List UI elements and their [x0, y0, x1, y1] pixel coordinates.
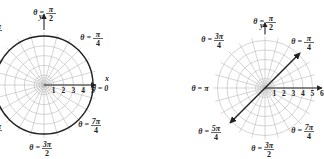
- angle-label: θ =π4: [291, 34, 314, 52]
- grid-spoke: [30, 85, 44, 136]
- angle-label: θ =5π4: [198, 124, 221, 142]
- angle-label: θ =7π4: [291, 123, 314, 141]
- svg-text:θ = 0: θ = 0: [92, 84, 109, 93]
- radius-tick-label: 4: [301, 89, 305, 98]
- polar-graphs: y12345xθ =π2θ =π4θ =3π4θ = 0θ =7π4θ =5π4…: [0, 0, 324, 159]
- svg-text:2: 2: [267, 150, 271, 159]
- radius-tick-label: 6: [320, 89, 324, 98]
- svg-text:θ =: θ =: [291, 37, 302, 46]
- angle-label: θ = π: [191, 84, 209, 93]
- radius-tick-label: 1: [273, 89, 277, 98]
- grid-spoke: [30, 34, 44, 85]
- svg-text:θ =: θ =: [198, 127, 209, 136]
- svg-text:θ =: θ =: [33, 8, 44, 17]
- svg-text:4: 4: [307, 43, 311, 52]
- svg-text:4: 4: [94, 126, 98, 135]
- svg-text:θ =: θ =: [78, 120, 89, 129]
- svg-text:2: 2: [49, 14, 53, 23]
- svg-text:5π: 5π: [212, 124, 221, 133]
- radius-tick-label: 2: [62, 86, 66, 95]
- right-polar-graph-line-theta-pi-4: y123456θ =π2θ =3π4θ =π4θ = πθ =5π4θ =7π4…: [191, 14, 324, 159]
- svg-text:π: π: [49, 5, 54, 14]
- svg-text:3π: 3π: [214, 32, 224, 41]
- radius-tick-label: 4: [81, 86, 85, 95]
- svg-text:θ =: θ =: [253, 17, 264, 26]
- svg-text:3π: 3π: [264, 141, 274, 150]
- svg-text:θ =: θ =: [201, 35, 212, 44]
- svg-text:7π: 7π: [92, 117, 101, 126]
- svg-text:4: 4: [96, 39, 100, 48]
- angle-label: θ =7π4: [78, 117, 101, 135]
- svg-text:2: 2: [45, 149, 49, 158]
- svg-text:4: 4: [217, 41, 221, 50]
- radius-tick-label: 5: [311, 89, 315, 98]
- grid-spoke: [0, 85, 44, 112]
- angle-label: θ =3π4: [201, 32, 224, 50]
- svg-text:π: π: [96, 30, 101, 39]
- svg-text:7π: 7π: [305, 123, 314, 132]
- angle-label: θ =3π2: [29, 140, 52, 158]
- grid-spoke: [44, 71, 95, 85]
- grid-spoke: [44, 34, 58, 85]
- radius-tick-label: 2: [282, 89, 286, 98]
- svg-text:2: 2: [269, 23, 273, 32]
- angle-label: θ =5π4: [0, 122, 2, 140]
- svg-text:π: π: [307, 34, 312, 43]
- svg-text:θ =: θ =: [291, 126, 302, 135]
- svg-text:3π: 3π: [0, 22, 2, 31]
- svg-text:5π: 5π: [0, 122, 2, 131]
- svg-text:3π: 3π: [42, 140, 52, 149]
- svg-text:θ =: θ =: [29, 143, 40, 152]
- svg-text:θ =: θ =: [80, 33, 91, 42]
- grid-spoke: [252, 38, 265, 88]
- angle-label: θ = 0: [92, 84, 109, 93]
- angle-label: θ =3π4: [0, 22, 2, 40]
- svg-text:4: 4: [214, 133, 218, 142]
- left-polar-graph-circle-r5: y12345xθ =π2θ =π4θ =3π4θ = 0θ =7π4θ =5π4…: [0, 5, 109, 158]
- svg-text:θ = π: θ = π: [191, 84, 209, 93]
- radius-tick-label: 3: [292, 89, 296, 98]
- svg-text:π: π: [269, 14, 274, 23]
- angle-label: θ =3π2: [251, 141, 274, 159]
- svg-text:θ =: θ =: [251, 144, 262, 153]
- radius-tick-label: 3: [71, 86, 75, 95]
- grid-spoke: [0, 59, 44, 86]
- x-axis-label: x: [104, 74, 109, 83]
- angle-label: θ =π2: [33, 5, 56, 23]
- angle-label: θ =π4: [80, 30, 103, 48]
- grid-spoke: [215, 75, 265, 88]
- svg-text:4: 4: [307, 132, 311, 141]
- radius-tick-label: 1: [52, 86, 56, 95]
